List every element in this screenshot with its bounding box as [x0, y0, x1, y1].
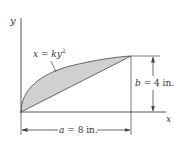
dimension-label-a: a = 8 in.	[59, 125, 98, 135]
dimension-label-b: b = 4 in.	[135, 78, 174, 88]
area-diagram: y x b = 4 in. a = 8 in. x = ky2	[0, 0, 178, 144]
x-axis-label: x	[166, 114, 171, 124]
curve-equation-label: x = ky2	[33, 47, 66, 59]
curve-leader-line	[51, 61, 56, 72]
y-axis-label: y	[9, 15, 16, 26]
shaded-area	[21, 56, 131, 112]
